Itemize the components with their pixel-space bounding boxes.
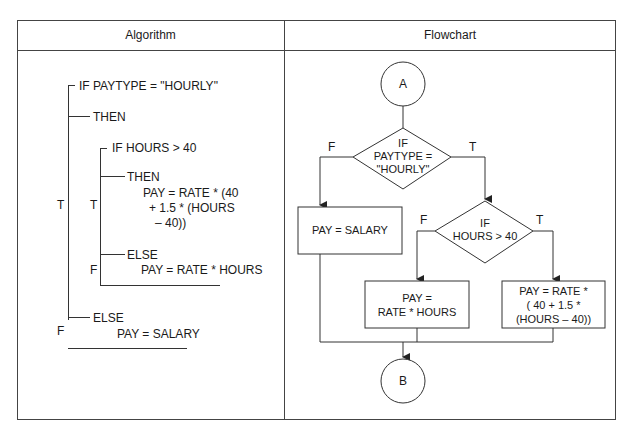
decision1-line-1: IF [363,137,443,150]
decision2-text: IF HOURS > 40 [445,217,525,243]
process-overtime-line-3: (HOURS – 40)) [502,312,605,326]
process-regular-line-1: PAY = [365,291,469,305]
process-overtime-text: PAY = RATE * ( 40 + 1.5 * (HOURS – 40)) [502,284,605,326]
decision1-text: IF PAYTYPE = "HOURLY" [363,137,443,176]
decision2-line-1: IF [445,217,525,230]
process-overtime-line-1: PAY = RATE * [502,284,605,298]
decision1-true-label: T [469,140,476,154]
decision2-true-label: T [536,213,543,227]
end-connector-label: B [399,374,407,388]
process-regular-line-2: RATE * HOURS [365,305,469,319]
start-connector-label: A [399,77,407,91]
decision2-line-2: HOURS > 40 [445,230,525,243]
decision1-line-3: "HOURLY" [363,163,443,176]
process-salary-text: PAY = SALARY [298,224,402,236]
decision1-line-2: PAYTYPE = [363,150,443,163]
process-regular-text: PAY = RATE * HOURS [365,291,469,319]
decision1-false-label: F [328,140,335,154]
decision2-false-label: F [420,213,427,227]
process-overtime-line-2: ( 40 + 1.5 * [502,298,605,312]
